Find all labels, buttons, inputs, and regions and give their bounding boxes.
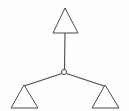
diagram-svg bbox=[0, 0, 129, 111]
edge-hub-to-bottom-right[interactable] bbox=[67, 74, 105, 87]
diagram-canvas bbox=[0, 0, 129, 111]
edge-group bbox=[24, 33, 104, 86]
top-triangle-node[interactable] bbox=[53, 8, 78, 33]
bottom-right-triangle-node[interactable] bbox=[92, 85, 119, 108]
edge-hub-to-top[interactable] bbox=[65, 33, 66, 70]
edge-hub-to-bottom-left[interactable] bbox=[24, 74, 62, 87]
bottom-left-triangle-node[interactable] bbox=[11, 85, 38, 108]
center-hub-node[interactable] bbox=[61, 69, 66, 74]
